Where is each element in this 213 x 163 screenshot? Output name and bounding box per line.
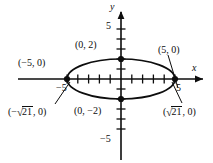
right-focus-radical-icon: √ <box>166 107 172 118</box>
annotation-top-vertex: (0, 2) <box>75 40 97 50</box>
y-axis-arrowhead <box>118 11 125 19</box>
annotation-right-vertex: (5, 0) <box>158 45 180 55</box>
x-axis-arrowhead <box>195 76 203 83</box>
y-axis-label: y <box>110 2 114 12</box>
left-focus-suffix: , 0) <box>33 106 46 117</box>
y-tick-label-neg5: −5 <box>100 134 111 144</box>
annotation-bottom-vertex: (0, −2) <box>74 106 101 116</box>
right-focus-radicand: 21 <box>171 106 182 118</box>
left-focus-radical-icon: √ <box>17 107 23 118</box>
point-bottom-covertex <box>118 96 124 102</box>
y-tick-label-5: 5 <box>106 21 111 31</box>
left-focus-radicand: 21 <box>22 106 33 118</box>
point-top-covertex <box>118 56 124 62</box>
annotation-left-focus: (−√21, 0) <box>8 106 46 118</box>
x-tick-label-neg5: −5 <box>56 83 67 93</box>
annotation-right-focus: (√21, 0) <box>163 106 196 118</box>
left-focus-prefix: (− <box>8 106 17 117</box>
right-focus-suffix: , 0) <box>182 106 195 117</box>
x-axis-label: x <box>192 63 196 73</box>
annotation-left-vertex: (−5, 0) <box>18 58 45 68</box>
ellipse-figure: y x 5 −5 −5 5 (0, 2) (0, −2) (5, 0) (−5,… <box>0 0 213 163</box>
x-tick-label-5: 5 <box>176 83 181 93</box>
